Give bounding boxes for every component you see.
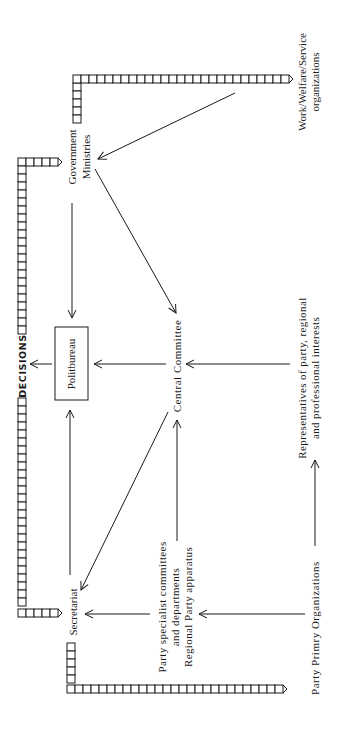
secretariat-label: Secretariat [67,588,79,635]
party-specialist-line-2: and departments [169,568,181,646]
arrow-workwelfare-to-govministries [98,93,235,159]
work-welfare-feedback-bracket [73,75,293,123]
arrow-centralcommittee-to-secretariat [81,412,168,590]
representatives-line-2: and professional interests [309,317,321,439]
party-specialist-line-1: Party specialist committees [156,541,168,672]
arrow-govministries-to-centralcommittee [95,169,176,313]
party-primary-feedback-bracket [67,643,287,693]
government-ministries-line-1: Government [66,130,78,185]
party-specialist-line-3: Regional Party apparatus [182,547,194,667]
work-welfare-line-2: organizations [309,52,321,111]
politbureau-label: Politbureau [65,338,77,389]
government-ministries-line-2: Ministries [80,135,92,180]
party-primary-label: Party Primry Organizations [309,561,321,695]
government-ministries-node: Government Ministries [66,130,92,185]
central-committee-label: Central Committee [171,320,183,413]
power-structure-diagram: Politbureau DECISIONS Government Ministr… [0,0,343,741]
party-specialist-node: Party specialist committees and departme… [156,541,194,672]
representatives-node: Representatives of party, regional and p… [296,297,321,458]
work-welfare-node: Work/Welfare/Service organizations [296,33,321,131]
representatives-line-1: Representatives of party, regional [296,297,308,458]
decisions-label: DECISIONS [17,334,28,398]
politbureau-node: Politbureau [55,327,88,400]
work-welfare-line-1: Work/Welfare/Service [296,33,308,131]
